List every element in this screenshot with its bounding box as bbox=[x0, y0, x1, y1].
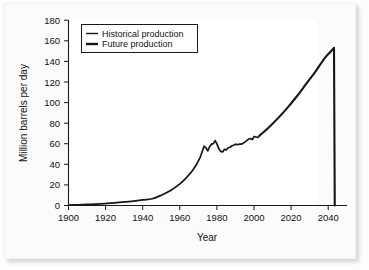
y-tick-label: 20 bbox=[49, 179, 60, 190]
y-tick-label: 160 bbox=[44, 35, 60, 46]
x-axis-ticks bbox=[69, 206, 329, 211]
chart-paper-panel: 0 20 40 60 80 100 120 140 160 180 bbox=[4, 3, 356, 259]
y-tick-label: 60 bbox=[49, 138, 60, 149]
y-tick-label: 0 bbox=[55, 200, 60, 211]
x-tick-label: 1980 bbox=[206, 212, 227, 223]
x-tick-label: 1940 bbox=[132, 212, 153, 223]
x-tick-label: 1900 bbox=[58, 212, 79, 223]
oil-production-line-chart: 0 20 40 60 80 100 120 140 160 180 bbox=[5, 4, 357, 260]
x-tick-label: 2020 bbox=[281, 212, 302, 223]
x-axis-tick-labels: 1900 1920 1940 1960 1980 2000 2020 2040 bbox=[58, 212, 339, 223]
y-axis-tick-labels: 0 20 40 60 80 100 120 140 160 180 bbox=[44, 15, 60, 211]
figure-root: 0 20 40 60 80 100 120 140 160 180 bbox=[0, 0, 369, 270]
x-tick-label: 1920 bbox=[95, 212, 116, 223]
y-tick-label: 80 bbox=[49, 118, 60, 129]
y-tick-label: 100 bbox=[44, 97, 60, 108]
y-tick-label: 120 bbox=[44, 77, 60, 88]
chart-legend: Historical production Future production bbox=[82, 25, 198, 53]
y-axis-title: Million barrels per day bbox=[18, 64, 29, 162]
x-tick-label: 1960 bbox=[169, 212, 190, 223]
y-tick-label: 40 bbox=[49, 159, 60, 170]
x-tick-label: 2000 bbox=[243, 212, 264, 223]
y-axis-ticks bbox=[64, 20, 69, 205]
legend-label-future: Future production bbox=[102, 39, 173, 49]
y-tick-label: 180 bbox=[44, 15, 60, 26]
x-axis-title: Year bbox=[197, 232, 218, 243]
y-tick-label: 140 bbox=[44, 56, 60, 67]
legend-label-historical: Historical production bbox=[102, 29, 184, 39]
x-tick-label: 2040 bbox=[318, 212, 339, 223]
